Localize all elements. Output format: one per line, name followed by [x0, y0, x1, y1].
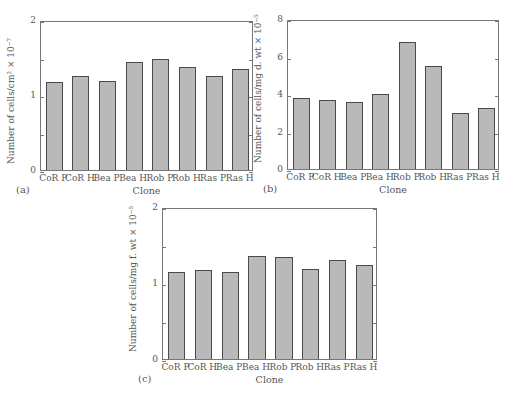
y-tick-mark	[162, 209, 166, 210]
y-tick-mark	[40, 135, 44, 136]
bar-rob-h	[302, 269, 319, 359]
bar-bea-h	[126, 62, 143, 170]
y-tick-label: 2	[146, 202, 158, 212]
y-tick-mark	[162, 247, 166, 248]
y-tick-label: 8	[271, 14, 283, 24]
y-tick-mark	[40, 60, 44, 61]
bar-cor-h	[72, 76, 89, 170]
y-tick-label: 0	[146, 354, 158, 364]
bar-ras-h	[356, 265, 373, 359]
bar-bea-p	[346, 102, 363, 170]
y-tick-mark	[162, 285, 166, 286]
bar-ras-h	[232, 69, 249, 170]
bar-rob-p	[275, 257, 292, 359]
bar-cor-p	[168, 272, 185, 359]
bar-bea-p	[222, 272, 239, 359]
bar-ras-p	[452, 113, 469, 169]
y-tick-mark	[373, 247, 377, 248]
y-tick-mark	[373, 323, 377, 324]
bar-bea-h	[372, 94, 389, 169]
bar-cor-h	[195, 270, 212, 359]
bar-cor-h	[319, 100, 336, 169]
y-tick-mark	[495, 96, 499, 97]
y-tick-mark	[40, 97, 44, 98]
y-tick-mark	[495, 59, 499, 60]
y-tick-mark	[162, 323, 166, 324]
bar-rob-h	[425, 66, 442, 169]
y-axis-label: Number of cells/mg f. wt × 10⁻⁵	[128, 206, 138, 352]
y-tick-label: 0	[24, 165, 36, 175]
y-tick-mark	[373, 209, 377, 210]
y-tick-label: 4	[271, 89, 283, 99]
bar-rob-h	[179, 67, 196, 170]
bar-ras-p	[329, 260, 346, 359]
x-tick-label: Ras H	[346, 362, 381, 372]
y-tick-mark	[495, 21, 499, 22]
panel-label: (c)	[138, 373, 151, 384]
bar-cor-p	[293, 98, 310, 169]
y-tick-mark	[495, 134, 499, 135]
bar-bea-p	[99, 81, 116, 170]
panel-label: (a)	[16, 184, 30, 195]
y-tick-label: 6	[271, 52, 283, 62]
y-tick-mark	[287, 134, 291, 135]
y-tick-label: 2	[24, 15, 36, 25]
y-tick-mark	[287, 96, 291, 97]
y-axis-label: Number of cells/mg d. wt × 10⁻⁵	[253, 14, 263, 163]
plot-area	[162, 208, 377, 360]
x-tick-label: Ras H	[222, 173, 257, 183]
y-tick-mark	[40, 22, 44, 23]
bar-ras-h	[478, 108, 495, 169]
plot-area	[287, 20, 499, 170]
y-axis-label: Number of cells/cm² × 10⁻⁷	[6, 38, 16, 164]
y-tick-mark	[373, 285, 377, 286]
panel-label: (b)	[263, 183, 277, 194]
x-axis-label: Clone	[162, 374, 377, 385]
y-tick-mark	[287, 59, 291, 60]
bar-rob-p	[399, 42, 416, 170]
y-tick-label: 1	[24, 90, 36, 100]
y-tick-label: 0	[271, 164, 283, 174]
y-tick-label: 2	[271, 127, 283, 137]
y-tick-mark	[287, 21, 291, 22]
x-axis-label: Clone	[287, 184, 499, 195]
x-tick-label: Ras H	[469, 172, 504, 182]
bar-ras-p	[206, 76, 223, 170]
y-tick-label: 1	[146, 278, 158, 288]
bar-bea-h	[248, 256, 265, 359]
plot-area	[40, 21, 253, 171]
x-axis-label: Clone	[40, 185, 253, 196]
bar-rob-p	[152, 59, 169, 170]
bar-cor-p	[46, 82, 63, 170]
